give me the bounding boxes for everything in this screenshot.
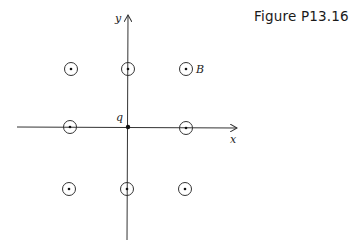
field-out-icon [63, 183, 76, 196]
x-axis-label: x [230, 133, 237, 146]
charge-q-dot [126, 125, 130, 129]
y-axis-label: y [114, 12, 122, 25]
field-out-icon [180, 63, 193, 76]
field-label-b: B [195, 63, 204, 76]
field-out-icon [65, 63, 78, 76]
field-out-icon [179, 183, 192, 196]
charge-label: q [116, 111, 123, 124]
